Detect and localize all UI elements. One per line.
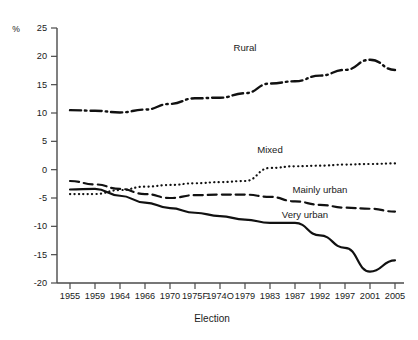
x-axis-title: Election [194, 313, 230, 324]
series-group [70, 60, 395, 272]
x-tick-label: 2005 [385, 291, 405, 301]
y-tick-label: -5 [39, 193, 47, 203]
series-label-mainly-urban: Mainly urban [293, 184, 348, 195]
x-tick-label: 1975F [182, 291, 208, 301]
x-tick-label: 1979 [235, 291, 255, 301]
chart-canvas: % 2520151050-5-10-15-20 1955195919641966… [0, 0, 418, 340]
y-tick-label: 0 [42, 165, 47, 175]
x-tick-label: 1974O [206, 291, 234, 301]
x-tick-label: 1970 [160, 291, 180, 301]
series-annotations: RuralMixedMainly urbanVery urban [234, 42, 348, 221]
x-axis-ticks: 195519591964196619701975F1974O1979198319… [60, 283, 405, 301]
series-label-mixed: Mixed [257, 144, 283, 155]
series-line-rural [70, 60, 395, 113]
y-tick-label: -20 [34, 278, 47, 288]
x-tick-label: 2001 [360, 291, 380, 301]
x-tick-label: 1959 [85, 291, 105, 301]
x-tick-label: 1966 [135, 291, 155, 301]
series-label-rural: Rural [234, 42, 257, 53]
series-line-very-urban [70, 189, 395, 272]
line-chart: % 2520151050-5-10-15-20 1955195919641966… [0, 0, 418, 340]
x-tick-label: 1987 [285, 291, 305, 301]
x-tick-label: 1964 [110, 291, 130, 301]
x-tick-label: 1992 [310, 291, 330, 301]
y-tick-label: 5 [42, 136, 47, 146]
x-tick-label: 1983 [260, 291, 280, 301]
x-tick-label: 1955 [60, 291, 80, 301]
x-tick-label: 1997 [335, 291, 355, 301]
y-tick-label: -10 [34, 221, 47, 231]
y-axis-unit-group: % [12, 24, 20, 34]
y-tick-label: 10 [37, 108, 47, 118]
y-tick-label: 20 [37, 51, 47, 61]
y-tick-label: 15 [37, 80, 47, 90]
y-tick-label: 25 [37, 23, 47, 33]
y-tick-label: -15 [34, 250, 47, 260]
y-axis-ticks: 2520151050-5-10-15-20 [34, 23, 57, 288]
series-label-very-urban: Very urban [282, 209, 328, 220]
y-axis-unit-label: % [12, 24, 20, 34]
